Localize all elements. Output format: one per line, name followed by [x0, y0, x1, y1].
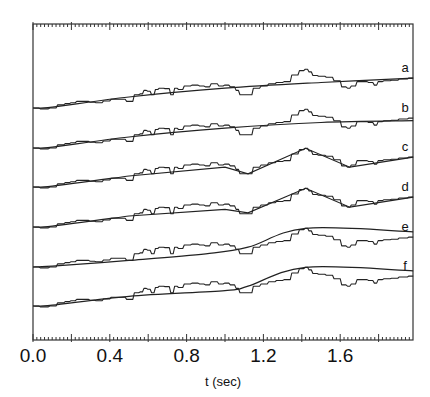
x-tick-label: 0.0 [20, 345, 46, 366]
x-tick-label: 0.4 [97, 345, 124, 366]
trace-d: d [33, 179, 413, 228]
series-label-f: f [403, 258, 407, 273]
trace-a: a [33, 60, 413, 109]
measured-signal-e [33, 228, 413, 268]
x-tick-label: 0.8 [173, 345, 199, 366]
series-label-b: b [401, 100, 408, 115]
measured-signal-c [33, 148, 413, 188]
x-axis-ticks-top [33, 22, 409, 30]
trace-f: f [33, 258, 413, 307]
fit-curve-d [33, 188, 413, 227]
traces: abcdef [33, 60, 413, 307]
measured-signal-a [33, 69, 413, 109]
line-chart: abcdef 0.00.40.81.21.6 t (sec) [0, 0, 430, 397]
fit-curve-f [33, 267, 413, 307]
x-tick-label: 1.2 [250, 345, 276, 366]
fit-curve-a [33, 78, 413, 108]
trace-e: e [33, 219, 413, 268]
series-label-a: a [401, 60, 409, 75]
series-label-c: c [402, 139, 409, 154]
x-axis-tick-labels: 0.00.40.81.21.6 [20, 345, 354, 366]
x-tick-label: 1.6 [327, 345, 353, 366]
trace-b: b [33, 100, 413, 149]
series-label-d: d [401, 179, 408, 194]
fit-curve-c [33, 148, 413, 187]
measured-signal-d [33, 188, 413, 228]
trace-c: c [33, 139, 413, 188]
measured-signal-b [33, 109, 413, 149]
plot-frame [33, 24, 413, 340]
x-axis-ticks-bottom [33, 334, 409, 342]
series-label-e: e [401, 219, 408, 234]
x-axis-label: t (sec) [205, 374, 241, 389]
